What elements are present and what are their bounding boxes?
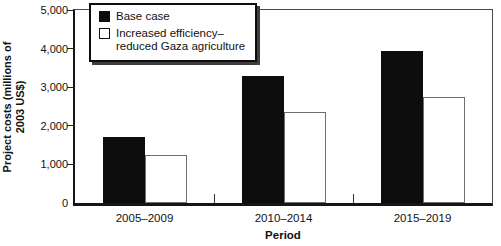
bar-base-case bbox=[103, 137, 145, 203]
x-category-label: 2015–2019 bbox=[373, 211, 473, 225]
bar-base-case bbox=[381, 51, 423, 203]
y-tick-label: 0 bbox=[26, 196, 68, 210]
x-axis-title: Period bbox=[233, 229, 333, 241]
y-tick-label: 1,000 bbox=[26, 157, 68, 171]
y-tick-mark bbox=[67, 164, 74, 165]
y-tick-label: 2,000 bbox=[26, 119, 68, 133]
y-tick-mark bbox=[67, 10, 74, 11]
y-tick-mark bbox=[67, 87, 74, 88]
bar-increased-efficiency bbox=[423, 97, 465, 203]
legend: Base case Increased efficiency– reduced … bbox=[89, 3, 257, 62]
bar-base-case bbox=[242, 76, 284, 203]
y-tick-mark bbox=[67, 125, 74, 126]
x-category-label: 2010–2014 bbox=[234, 211, 334, 225]
y-tick-label: 4,000 bbox=[26, 42, 68, 56]
bar-chart-figure: Project costs (millions of 2003 US$) Bas… bbox=[0, 0, 501, 246]
y-axis-title-line2: 2003 US$) bbox=[14, 81, 26, 134]
x-axis-boundary-tick bbox=[353, 194, 354, 203]
legend-label-base-case: Base case bbox=[116, 10, 170, 24]
bar-increased-efficiency bbox=[145, 155, 187, 203]
bar-increased-efficiency bbox=[284, 112, 326, 203]
y-axis-title: Project costs (millions of 2003 US$) bbox=[1, 7, 29, 207]
x-axis-boundary-tick bbox=[214, 194, 215, 203]
y-axis-title-line1: Project costs (millions of bbox=[1, 42, 13, 173]
x-category-label: 2005–2009 bbox=[95, 211, 195, 225]
legend-item-increased-efficiency: Increased efficiency– reduced Gaza agric… bbox=[99, 27, 245, 54]
legend-label-increased-efficiency: Increased efficiency– reduced Gaza agric… bbox=[116, 27, 245, 54]
legend-swatch-increased-efficiency bbox=[99, 28, 110, 39]
y-tick-label: 5,000 bbox=[26, 3, 68, 17]
legend-swatch-base-case bbox=[99, 11, 110, 22]
y-tick-mark bbox=[67, 48, 74, 49]
legend-item-base-case: Base case bbox=[99, 10, 245, 24]
y-tick-label: 3,000 bbox=[26, 80, 68, 94]
